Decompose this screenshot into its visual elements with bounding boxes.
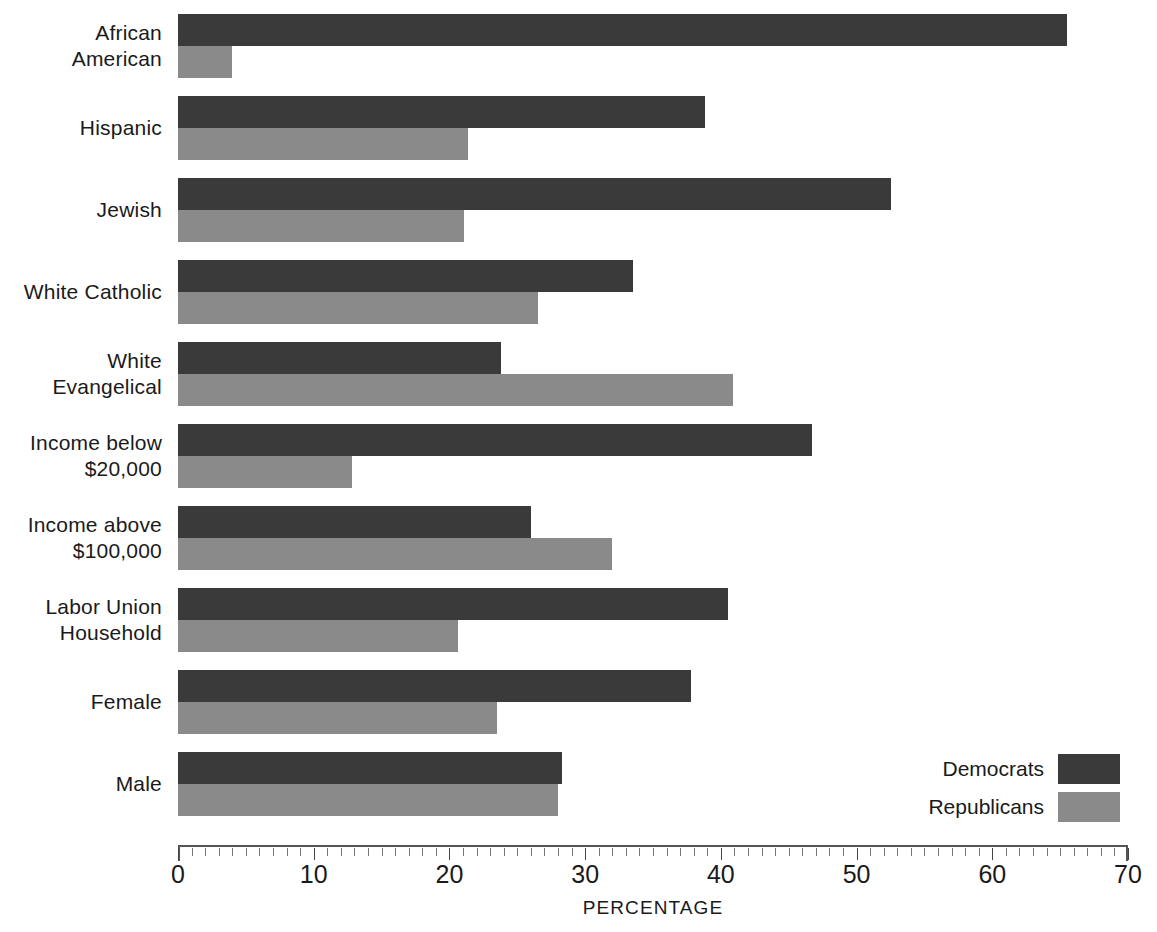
category-label-line: Female <box>0 689 162 715</box>
x-tick-minor <box>626 848 627 856</box>
x-tick-minor <box>395 848 396 856</box>
x-tick-minor <box>232 848 233 856</box>
legend-label: Republicans <box>928 795 1044 819</box>
category-label-line: $100,000 <box>0 538 162 564</box>
category-label: Labor UnionHousehold <box>0 594 162 646</box>
category-label-line: Evangelical <box>0 374 162 400</box>
bar-democrats-white-evangelical <box>178 342 501 374</box>
bar-democrats-hispanic <box>178 96 705 128</box>
x-tick-label: 20 <box>436 859 464 889</box>
legend-item[interactable]: Democrats <box>920 752 1120 786</box>
x-tick-minor <box>327 848 328 856</box>
x-tick-minor <box>368 848 369 856</box>
x-tick-minor <box>205 848 206 856</box>
category-label-line: White Catholic <box>0 279 162 305</box>
x-tick-minor <box>938 848 939 856</box>
category-labels: AfricanAmericanHispanicJewishWhite Catho… <box>0 14 162 832</box>
category-label: Income above$100,000 <box>0 512 162 564</box>
x-tick-minor <box>952 848 953 856</box>
x-tick-minor <box>775 848 776 856</box>
bar-group <box>178 506 1128 570</box>
category-label: Income below$20,000 <box>0 430 162 482</box>
x-tick-minor <box>544 848 545 856</box>
x-tick-minor <box>259 848 260 856</box>
category-label-line: $20,000 <box>0 456 162 482</box>
x-tick-minor <box>884 848 885 856</box>
x-tick-minor <box>1074 848 1075 856</box>
bar-group <box>178 342 1128 406</box>
x-tick-minor <box>192 848 193 856</box>
bar-republicans-income-above-100-000 <box>178 538 612 570</box>
x-tick-label: 60 <box>978 859 1006 889</box>
x-tick-minor <box>422 848 423 856</box>
legend-swatch <box>1058 792 1120 822</box>
x-tick-minor <box>694 848 695 856</box>
bar-democrats-income-below-20-000 <box>178 424 812 456</box>
x-tick-label: 10 <box>300 859 328 889</box>
x-tick-minor <box>1033 848 1034 856</box>
x-tick-minor <box>1060 848 1061 856</box>
x-tick-minor <box>246 848 247 856</box>
plot-area <box>178 14 1128 832</box>
x-tick-label: 50 <box>843 859 871 889</box>
x-tick-minor <box>1101 848 1102 856</box>
category-label: White Catholic <box>0 279 162 305</box>
bar-democrats-female <box>178 670 691 702</box>
x-tick-minor <box>653 848 654 856</box>
category-label: Female <box>0 689 162 715</box>
category-label-line: Labor Union <box>0 594 162 620</box>
category-label: Hispanic <box>0 115 162 141</box>
category-label-line: Male <box>0 771 162 797</box>
x-tick-minor <box>1047 848 1048 856</box>
x-tick-minor <box>911 848 912 856</box>
x-tick-minor <box>748 848 749 856</box>
x-tick-minor <box>341 848 342 856</box>
bar-democrats-labor-union-household <box>178 588 728 620</box>
bar-group <box>178 670 1128 734</box>
x-tick-minor <box>843 848 844 856</box>
x-tick-label: 40 <box>707 859 735 889</box>
x-tick-minor <box>639 848 640 856</box>
x-tick-minor <box>436 848 437 856</box>
bar-chart: AfricanAmericanHispanicJewishWhite Catho… <box>0 0 1157 932</box>
category-label: Male <box>0 771 162 797</box>
category-label: AfricanAmerican <box>0 20 162 72</box>
x-tick-minor <box>477 848 478 856</box>
bar-group <box>178 14 1128 78</box>
bar-democrats-african-american <box>178 14 1067 46</box>
x-tick-minor <box>897 848 898 856</box>
category-label-line: Income above <box>0 512 162 538</box>
category-label: Jewish <box>0 197 162 223</box>
x-tick-label: 0 <box>171 859 185 889</box>
category-label-line: African <box>0 20 162 46</box>
x-tick-minor <box>924 848 925 856</box>
bar-republicans-hispanic <box>178 128 468 160</box>
x-tick-minor <box>531 848 532 856</box>
bar-group <box>178 424 1128 488</box>
x-tick-minor <box>1019 848 1020 856</box>
x-tick-minor <box>612 848 613 856</box>
bar-republicans-male <box>178 784 558 816</box>
x-tick-label: 30 <box>571 859 599 889</box>
bar-democrats-jewish <box>178 178 891 210</box>
bar-republicans-labor-union-household <box>178 620 458 652</box>
x-tick-minor <box>354 848 355 856</box>
x-tick-minor <box>490 848 491 856</box>
x-axis-title: PERCENTAGE <box>178 897 1128 919</box>
bar-republicans-white-catholic <box>178 292 538 324</box>
x-tick-label: 70 <box>1114 859 1142 889</box>
x-tick-minor <box>1087 848 1088 856</box>
bar-group <box>178 178 1128 242</box>
bar-democrats-white-catholic <box>178 260 633 292</box>
x-tick-minor <box>680 848 681 856</box>
bar-democrats-male <box>178 752 562 784</box>
bar-group <box>178 96 1128 160</box>
x-tick-minor <box>762 848 763 856</box>
bar-republicans-female <box>178 702 497 734</box>
x-tick-minor <box>734 848 735 856</box>
x-tick-minor <box>802 848 803 856</box>
category-label-line: Income below <box>0 430 162 456</box>
chart-legend: DemocratsRepublicans <box>920 752 1120 828</box>
bar-republicans-income-below-20-000 <box>178 456 352 488</box>
legend-item[interactable]: Republicans <box>920 790 1120 824</box>
